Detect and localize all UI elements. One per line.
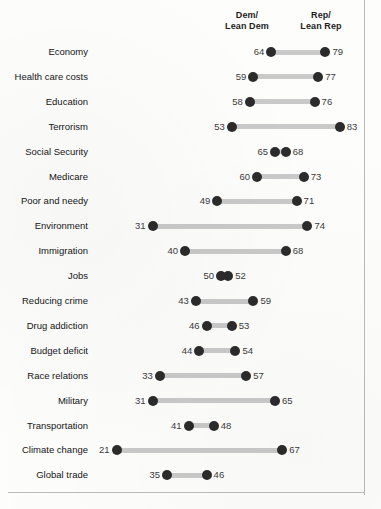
dumbbell-row: Climate change2167 [0, 438, 381, 462]
dem-value-label: 65 [257, 146, 268, 158]
connector-line [185, 249, 286, 254]
dem-value-label: 46 [189, 320, 200, 332]
rep-dot[interactable] [299, 172, 309, 182]
rep-value-label: 46 [214, 469, 225, 481]
rep-value-label: 71 [304, 195, 315, 207]
rep-value-label: 68 [293, 146, 304, 158]
dumbbell-row: Terrorism5383 [0, 115, 381, 139]
rep-dot[interactable] [223, 271, 233, 281]
dem-dot[interactable] [180, 246, 190, 256]
row-label: Budget deficit [0, 345, 88, 357]
dumbbell-row: Transportation4148 [0, 414, 381, 438]
rep-dot[interactable] [209, 421, 219, 431]
dem-dot[interactable] [212, 196, 222, 206]
row-plot: 6479 [95, 40, 365, 64]
row-plot: 4653 [95, 314, 365, 338]
connector-line [232, 124, 340, 129]
connector-line [117, 448, 283, 453]
rep-dot[interactable] [292, 196, 302, 206]
connector-line [271, 50, 325, 55]
rep-value-label: 74 [314, 220, 325, 232]
dumbbell-row: Medicare6073 [0, 165, 381, 189]
row-label: Social Security [0, 146, 88, 158]
dem-dot[interactable] [252, 172, 262, 182]
rep-value-label: 83 [347, 121, 358, 133]
row-label: Medicare [0, 171, 88, 183]
dem-value-label: 43 [178, 295, 189, 307]
rep-dot[interactable] [202, 470, 212, 480]
connector-line [257, 174, 304, 179]
rep-value-label: 53 [239, 320, 250, 332]
row-label: Race relations [0, 370, 88, 382]
rep-value-label: 65 [282, 395, 293, 407]
rep-dot[interactable] [281, 246, 291, 256]
rep-dot[interactable] [313, 72, 323, 82]
rep-value-label: 79 [332, 46, 343, 58]
row-plot: 3165 [95, 389, 365, 413]
row-label: Terrorism [0, 121, 88, 133]
rep-dot[interactable] [230, 346, 240, 356]
rep-dot[interactable] [241, 371, 251, 381]
dem-value-label: 59 [236, 71, 247, 83]
rep-dot[interactable] [320, 47, 330, 57]
rep-value-label: 48 [221, 420, 232, 432]
rep-dot[interactable] [227, 321, 237, 331]
dem-dot[interactable] [191, 296, 201, 306]
dem-dot[interactable] [270, 147, 280, 157]
dem-dot[interactable] [148, 396, 158, 406]
rep-dot[interactable] [277, 445, 287, 455]
rep-dot[interactable] [310, 97, 320, 107]
dem-dot[interactable] [112, 445, 122, 455]
row-plot: 5383 [95, 115, 365, 139]
rep-dot[interactable] [248, 296, 258, 306]
row-plot: 3174 [95, 214, 365, 238]
dem-value-label: 35 [149, 469, 160, 481]
connector-line [250, 99, 315, 104]
row-label: Education [0, 96, 88, 108]
dem-dot[interactable] [227, 122, 237, 132]
connector-line [167, 473, 207, 478]
connector-line [153, 224, 308, 229]
row-label: Environment [0, 220, 88, 232]
dem-dot[interactable] [162, 470, 172, 480]
rep-value-label: 59 [260, 295, 271, 307]
dumbbell-row: Global trade3546 [0, 463, 381, 487]
rep-dot[interactable] [302, 221, 312, 231]
dem-value-label: 31 [135, 395, 146, 407]
dumbbell-rows: Economy6479Health care costs5977Educatio… [0, 0, 381, 509]
dem-value-label: 33 [142, 370, 153, 382]
rep-value-label: 52 [235, 270, 246, 282]
rep-dot[interactable] [281, 147, 291, 157]
dem-dot[interactable] [245, 97, 255, 107]
row-plot: 5977 [95, 65, 365, 89]
rep-value-label: 67 [289, 444, 300, 456]
rep-dot[interactable] [270, 396, 280, 406]
row-label: Jobs [0, 270, 88, 282]
dem-value-label: 31 [135, 220, 146, 232]
row-plot: 4454 [95, 339, 365, 363]
dumbbell-row: Social Security6568 [0, 140, 381, 164]
dem-dot[interactable] [202, 321, 212, 331]
dem-dot[interactable] [155, 371, 165, 381]
dem-dot[interactable] [248, 72, 258, 82]
dem-value-label: 53 [214, 121, 225, 133]
dem-dot[interactable] [266, 47, 276, 57]
row-label: Reducing crime [0, 295, 88, 307]
dem-dot[interactable] [194, 346, 204, 356]
rep-value-label: 77 [325, 71, 336, 83]
connector-line [217, 199, 296, 204]
dem-value-label: 50 [203, 270, 214, 282]
dumbbell-row: Economy6479 [0, 40, 381, 64]
dem-value-label: 21 [99, 444, 110, 456]
rep-value-label: 57 [253, 370, 264, 382]
dem-dot[interactable] [148, 221, 158, 231]
row-plot: 5876 [95, 90, 365, 114]
row-plot: 4148 [95, 414, 365, 438]
dumbbell-row: Budget deficit4454 [0, 339, 381, 363]
row-label: Drug addiction [0, 320, 88, 332]
dem-dot[interactable] [184, 421, 194, 431]
rep-dot[interactable] [335, 122, 345, 132]
dem-value-label: 40 [167, 245, 178, 257]
row-label: Poor and needy [0, 195, 88, 207]
dem-value-label: 44 [182, 345, 193, 357]
